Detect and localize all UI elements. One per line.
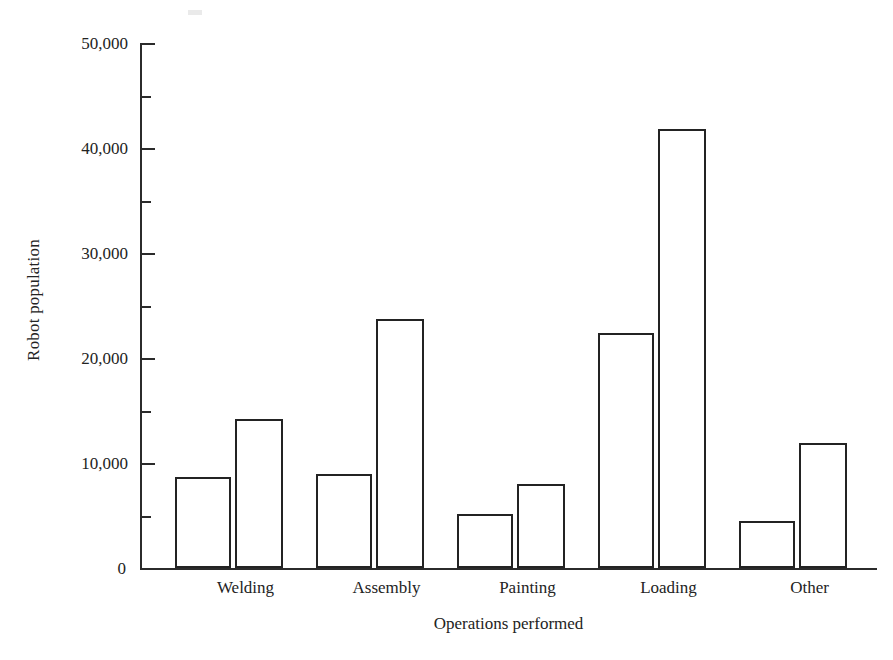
y-tick-50000: 50,000 [142,43,155,45]
scan-artifact-speck [188,10,202,15]
x-category-label-assembly: Assembly [316,578,457,598]
plot-area: 50,000 40,000 30,000 20,000 10,000 0 [140,43,877,568]
y-tick-10000: 10,000 [142,463,155,465]
y-tick-label-10000: 10,000 [81,455,128,472]
bar-group-assembly [316,43,457,568]
bar-group-loading [598,43,739,568]
y-tick-40000: 40,000 [142,148,155,150]
bar-chart-figure: Robot population 50,000 40,000 30,000 20… [0,0,893,660]
bar-loading-series-2 [658,129,706,568]
x-category-label-welding: Welding [175,578,316,598]
x-category-label-loading: Loading [598,578,739,598]
y-tick-0: 0 [142,568,155,570]
y-tick-label-40000: 40,000 [81,140,128,157]
y-tick-label-30000: 30,000 [81,245,128,262]
bar-painting-series-2 [517,484,565,568]
y-tick-15000 [142,411,151,413]
x-axis-title: Operations performed [140,614,877,634]
bar-other-series-1 [739,521,795,568]
y-tick-label-0: 0 [118,560,127,577]
bar-welding-series-2 [235,419,283,568]
bar-other-series-2 [799,443,847,568]
y-tick-20000: 20,000 [142,358,155,360]
bar-loading-series-1 [598,333,654,568]
bar-assembly-series-2 [376,319,424,568]
y-tick-35000 [142,201,151,203]
y-tick-25000 [142,306,151,308]
x-category-label-other: Other [739,578,880,598]
bar-welding-series-1 [175,477,231,568]
y-axis-title: Robot population [24,190,44,410]
y-tick-45000 [142,96,151,98]
y-tick-30000: 30,000 [142,253,155,255]
x-category-label-painting: Painting [457,578,598,598]
bar-assembly-series-1 [316,474,372,569]
bar-group-other [739,43,880,568]
y-tick-label-50000: 50,000 [81,35,128,52]
y-tick-label-20000: 20,000 [81,350,128,367]
x-axis-spine [140,568,877,570]
clipped-caption [168,650,728,660]
bar-group-painting [457,43,598,568]
bar-painting-series-1 [457,514,513,568]
y-tick-5000 [142,516,151,518]
bar-group-welding [175,43,316,568]
